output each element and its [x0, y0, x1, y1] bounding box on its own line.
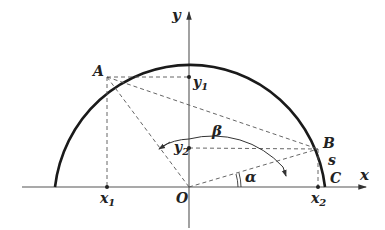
x2-label: x2	[310, 190, 326, 208]
x-axis-label: x	[359, 166, 370, 184]
y2-label: y2	[173, 139, 189, 157]
beta-label: β	[211, 122, 222, 140]
diagram-canvas: y x O A B C s y1 y2 x1 x2 β α	[0, 0, 385, 230]
point-a-label: A	[91, 63, 104, 79]
x1-label: x1	[99, 190, 115, 208]
y1-label: y1	[192, 74, 208, 92]
point-x2-dot	[316, 185, 320, 189]
point-x1-dot	[105, 185, 109, 189]
semicircle-arc	[55, 65, 325, 187]
arc-length-label: s	[328, 152, 336, 168]
point-b-label: B	[322, 135, 335, 151]
origin-label: O	[176, 190, 189, 206]
alpha-angle-arc	[236, 174, 238, 187]
alpha-label: α	[245, 168, 257, 186]
y-axis-label: y	[171, 6, 182, 24]
point-y1-dot	[187, 75, 191, 79]
point-c-label: C	[330, 170, 341, 186]
